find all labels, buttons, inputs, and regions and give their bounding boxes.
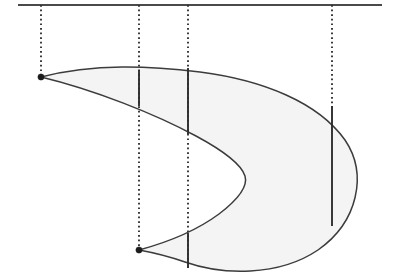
- figure-root: [0, 0, 402, 275]
- vertex-bottom-dot: [136, 247, 142, 253]
- crescent-region-fill: [41, 67, 357, 271]
- vertex-left-dot: [38, 74, 44, 80]
- crescent-diagram-svg: [0, 0, 402, 275]
